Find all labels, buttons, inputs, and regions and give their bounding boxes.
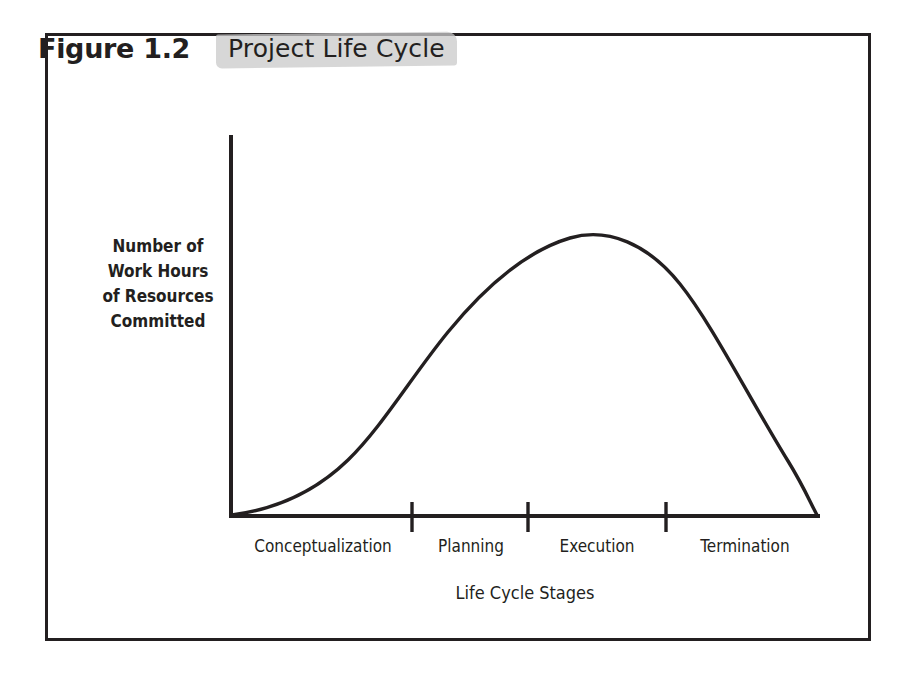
figure-number-label: Figure 1.2	[38, 33, 190, 64]
y-axis-label-line-4: Committed	[111, 311, 206, 331]
y-axis-label-line-2: Work Hours	[108, 261, 209, 281]
x-axis-title: Life Cycle Stages	[456, 582, 595, 603]
y-axis-label-line-1: Number of	[113, 236, 204, 256]
project-life-cycle-chart: Conceptualization Planning Execution Ter…	[48, 36, 874, 644]
resource-commitment-curve	[232, 235, 817, 515]
figure-caption: Figure 1.2 Project Life Cycle	[38, 25, 457, 71]
stage-label-execution: Execution	[560, 536, 635, 556]
figure-title-text: Project Life Cycle	[228, 34, 445, 63]
stage-label-conceptualization: Conceptualization	[254, 536, 392, 556]
chart-plot-area: Conceptualization Planning Execution Ter…	[48, 36, 874, 644]
figure-root: Conceptualization Planning Execution Ter…	[0, 0, 920, 685]
figure-title-highlight-wrap: Project Life Cycle	[216, 34, 457, 63]
figure-border: Conceptualization Planning Execution Ter…	[45, 33, 871, 641]
y-axis-label-line-3: of Resources	[102, 286, 213, 306]
stage-label-planning: Planning	[438, 536, 504, 556]
stage-label-termination: Termination	[699, 536, 789, 556]
